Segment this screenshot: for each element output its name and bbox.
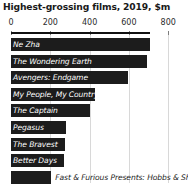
bar-row[interactable]: Ne Zha: [0, 38, 188, 51]
x-axis-line: [11, 32, 150, 34]
bars-group: Ne ZhaThe Wondering EarthAvengers: Endga…: [0, 38, 188, 187]
bar-label: Ne Zha: [13, 39, 40, 50]
bar-row[interactable]: The Bravest: [0, 138, 188, 151]
bar-row[interactable]: Fast & Furious Presents: Hobbs & Show: [0, 171, 188, 184]
bar-label: The Wondering Earth: [13, 56, 92, 67]
bar-chart: Highest-grossing films, 2019, $m 0200400…: [0, 0, 188, 187]
bar-label: Avengers: Endgame: [13, 72, 88, 83]
bar-row[interactable]: Better Days: [0, 154, 188, 167]
bar-label: The Bravest: [13, 139, 58, 150]
bar-row[interactable]: The Captain: [0, 104, 188, 117]
bar-row[interactable]: My People, My Country: [0, 88, 188, 101]
x-tick-label: 800: [161, 18, 176, 27]
bar-row[interactable]: Pegasus: [0, 121, 188, 134]
bar-label: Better Days: [13, 155, 57, 166]
plot-area: 0200400600800 Ne ZhaThe Wondering EarthA…: [0, 18, 188, 187]
x-axis-tick-labels: 0200400600800: [0, 18, 188, 31]
bar[interactable]: [11, 171, 51, 184]
bar-label: Pegasus: [13, 122, 44, 133]
bar-label: My People, My Country: [13, 89, 98, 100]
x-tick-label: 400: [82, 18, 97, 27]
chart-title: Highest-grossing films, 2019, $m: [3, 1, 170, 12]
x-tick-label: 600: [121, 18, 136, 27]
bar-row[interactable]: Avengers: Endgame: [0, 71, 188, 84]
bar-row[interactable]: The Wondering Earth: [0, 55, 188, 68]
bar-label: The Captain: [13, 105, 58, 116]
bar-label: Fast & Furious Presents: Hobbs & Show: [55, 172, 188, 183]
x-tick-mark: [168, 31, 169, 35]
x-tick-label: 0: [8, 18, 13, 27]
x-tick-label: 200: [43, 18, 58, 27]
